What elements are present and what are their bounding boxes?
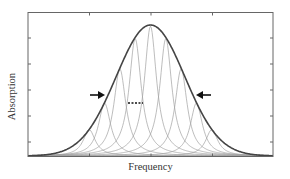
x-axis-label: Frequency	[28, 161, 273, 172]
right-arrow	[196, 91, 211, 99]
y-axis-label-text: Absorption	[7, 72, 18, 119]
y-axis-label: Absorption	[1, 51, 23, 141]
plot-frame	[28, 13, 273, 157]
absorption-chart	[0, 0, 290, 179]
component-line	[28, 26, 273, 155]
left-arrow	[90, 91, 105, 99]
component-line	[28, 69, 273, 156]
envelope-curve	[28, 25, 273, 156]
component-lines	[28, 26, 273, 156]
component-line	[28, 69, 273, 156]
component-line	[28, 39, 273, 156]
component-line	[28, 103, 273, 156]
component-line	[28, 39, 273, 156]
component-line	[28, 103, 273, 156]
axis-ticks	[28, 13, 273, 157]
